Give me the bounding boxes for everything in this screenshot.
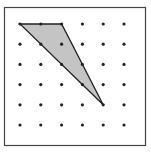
grid-dot	[102, 22, 105, 25]
grid-dot	[122, 103, 125, 106]
grid-dot	[60, 22, 63, 25]
grid-dot	[39, 103, 42, 106]
grid-dot	[81, 22, 84, 25]
grid-dot	[102, 63, 105, 66]
grid-dot	[18, 103, 21, 106]
grid-dot	[102, 43, 105, 46]
grid-dot	[102, 83, 105, 86]
grid-dot	[18, 123, 21, 126]
grid-dot	[81, 63, 84, 66]
grid-dot	[60, 103, 63, 106]
grid-dot	[39, 43, 42, 46]
grid-dot	[18, 22, 21, 25]
geoboard-diagram	[0, 0, 151, 155]
grid-dot	[122, 83, 125, 86]
grid-dot	[60, 43, 63, 46]
grid-dot	[39, 22, 42, 25]
grid-dot	[18, 63, 21, 66]
grid-dot	[81, 83, 84, 86]
grid-dot	[18, 83, 21, 86]
grid-dot	[102, 123, 105, 126]
grid-dot	[81, 103, 84, 106]
grid-dot	[39, 63, 42, 66]
grid-dot	[122, 22, 125, 25]
grid-dot	[60, 63, 63, 66]
grid-dot	[60, 83, 63, 86]
grid-dot	[81, 43, 84, 46]
grid-dot	[39, 83, 42, 86]
grid-dot	[39, 123, 42, 126]
grid-dot	[18, 43, 21, 46]
grid-dot	[122, 43, 125, 46]
grid-dot	[60, 123, 63, 126]
grid-dot	[102, 103, 105, 106]
grid-dot	[122, 63, 125, 66]
grid-dot	[81, 123, 84, 126]
grid-dot	[122, 123, 125, 126]
